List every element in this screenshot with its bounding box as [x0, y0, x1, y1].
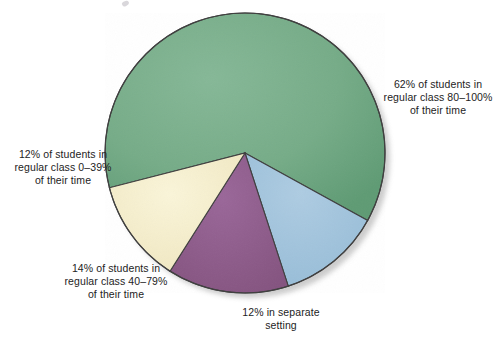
pie-label-separate-setting: 12% in separate setting [222, 306, 340, 332]
pie-label-regular-class-40-79: 14% of students in regular class 40–79% … [46, 262, 186, 302]
pie-label-regular-class-80-100: 62% of students in regular class 80–100%… [379, 78, 497, 118]
pie-chart-figure: 62% of students in regular class 80–100%… [0, 0, 497, 337]
pie-label-regular-class-0-39: 12% of students in regular class 0–39% o… [2, 148, 124, 188]
paper-texture-overlay [106, 14, 385, 293]
